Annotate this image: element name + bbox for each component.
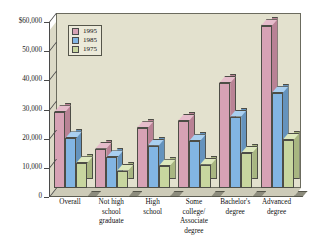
bar-front-face (283, 140, 294, 188)
bar-highschool-1995 (137, 128, 148, 188)
bar-overall-1985 (65, 138, 76, 188)
y-axis-tick-mark (44, 22, 49, 23)
x-axis-category-label: Advanceddegree (250, 198, 304, 217)
bar-front-face (241, 153, 252, 188)
bar-somecollegeassociatedegree-1985 (189, 141, 200, 188)
bar-overall-1995 (54, 112, 65, 188)
group-pedestal (128, 191, 142, 197)
bar-somecollegeassociatedegree-1995 (178, 121, 189, 188)
bar-front-face (200, 165, 211, 188)
bar-front-face (159, 166, 170, 188)
bar-advanceddegree-1975 (283, 140, 294, 188)
chart-container: $60,00050,00040,00030,00020,00010,0000 1… (0, 0, 311, 243)
group-pedestal (87, 191, 101, 197)
bar-front-face (178, 121, 189, 188)
legend-label: 1985 (83, 37, 97, 44)
x-axis-category-line: degree (250, 208, 304, 218)
bar-front-face (76, 163, 87, 188)
legend-swatch-icon (72, 37, 79, 44)
legend-swatch-icon (72, 28, 79, 35)
bar-front-face (219, 83, 230, 188)
bar-front-face (95, 149, 106, 188)
bar-highschool-1975 (159, 166, 170, 188)
legend-label: 1995 (83, 28, 97, 35)
bar-front-face (272, 93, 283, 188)
bar-nothighschoolgraduate-1985 (106, 157, 117, 188)
bar-nothighschoolgraduate-1995 (95, 149, 106, 188)
chart-legend: 199519851975 (68, 25, 102, 56)
y-axis-tick-mark (44, 51, 49, 52)
bar-nothighschoolgraduate-1975 (117, 171, 128, 189)
x-axis-category-line: Associate (167, 217, 221, 227)
x-axis-category-line: degree (167, 227, 221, 237)
legend-item-1975: 1975 (72, 46, 97, 53)
x-axis-category-line: Advanced (250, 198, 304, 208)
bar-highschool-1985 (148, 146, 159, 188)
bar-somecollegeassociatedegree-1975 (200, 165, 211, 188)
group-pedestal (252, 191, 266, 197)
group-pedestal (294, 191, 308, 197)
bar-advanceddegree-1985 (272, 93, 283, 188)
bar-bachelorsdegree-1985 (230, 117, 241, 188)
bar-front-face (230, 117, 241, 188)
bar-front-face (261, 26, 272, 188)
bar-advanceddegree-1995 (261, 26, 272, 188)
bar-front-face (117, 171, 128, 189)
x-axis-category-line: graduate (84, 217, 138, 227)
bar-front-face (137, 128, 148, 188)
legend-item-1985: 1985 (72, 37, 97, 44)
group-pedestal (170, 191, 184, 197)
bar-front-face (106, 157, 117, 188)
bar-front-face (148, 146, 159, 188)
bar-overall-1975 (76, 163, 87, 188)
bar-front-face (189, 141, 200, 188)
y-axis-tick-mark (44, 80, 49, 81)
legend-swatch-icon (72, 46, 79, 53)
legend-item-1995: 1995 (72, 28, 97, 35)
y-axis-tick-mark (44, 197, 49, 198)
bar-front-face (54, 112, 65, 188)
group-pedestal (211, 191, 225, 197)
bar-bachelorsdegree-1995 (219, 83, 230, 188)
legend-label: 1975 (83, 46, 97, 53)
bar-front-face (65, 138, 76, 188)
bar-bachelorsdegree-1975 (241, 153, 252, 188)
